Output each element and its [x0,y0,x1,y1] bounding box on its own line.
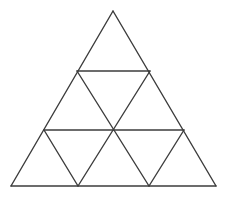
figure-background [0,0,236,202]
triangle-figure [0,0,236,202]
